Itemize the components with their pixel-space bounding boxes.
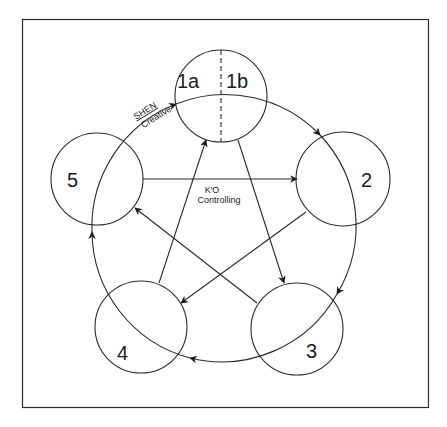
ko-arrow-2-to-4 [181,212,306,303]
element-circle-2[interactable] [296,132,390,226]
ko-arrow-4-to-1 [159,140,206,283]
ko-arrow-3-to-5 [135,208,257,303]
shen-arrow-5-to-1 [92,104,176,232]
shen-arrow-1-to-2 [176,95,320,135]
element-label-1a: 1a [177,70,200,92]
shen-cycle [92,95,356,362]
ko-arrow-1-to-3 [238,140,284,283]
ko-label: K'O [205,185,220,195]
element-label-4: 4 [117,342,128,364]
shen-arrow-2-to-3 [320,135,356,294]
element-label-3: 3 [306,340,317,362]
five-element-diagram: 1a 1b 2 3 4 5 SHEN Creative K'O Controll… [0,0,447,427]
element-label-1b: 1b [226,70,248,92]
element-circle-3[interactable] [251,283,343,375]
element-circles [51,50,390,375]
element-circle-1[interactable] [175,50,267,142]
ko-cycle [135,140,306,303]
ko-description: Controlling [197,195,240,205]
shen-label-group: SHEN Creative [132,94,173,131]
element-label-5: 5 [67,169,78,191]
element-label-2: 2 [361,169,372,191]
element-circle-4[interactable] [95,281,187,373]
shen-arrow-4-to-5 [92,232,190,358]
element-circle-5[interactable] [51,133,143,225]
